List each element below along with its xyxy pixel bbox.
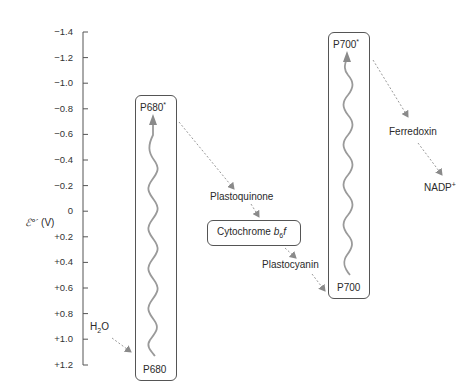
arrow-water-to-p680 — [112, 338, 131, 352]
water-o: O — [101, 321, 109, 332]
p680-excited-label: P680* — [140, 101, 166, 113]
nadp-text: NADP — [424, 182, 452, 193]
cytochrome-text: Cytochrome — [217, 226, 274, 237]
nadp-label: NADP+ — [424, 181, 456, 193]
excited-star: * — [163, 101, 166, 108]
plastoquinone-label: Plastoquinone — [210, 192, 273, 202]
p700-ground-label: P700 — [337, 283, 360, 293]
tick-label: +1.0 — [33, 334, 73, 344]
plastocyanin-label: Plastocyanin — [262, 260, 319, 270]
tick-label: +0.4 — [33, 257, 73, 267]
axis-unit: (V) — [41, 217, 54, 228]
water-label: H2O — [90, 322, 109, 334]
arrow-cytochrome-to-plastocyanin — [285, 248, 296, 258]
tick-label: −1.2 — [33, 53, 73, 63]
axis-title: ℰ°′ (V) — [25, 217, 54, 228]
cytochrome-b6f-label: Cytochrome b6f — [217, 227, 286, 239]
arrow-plastocyanin-to-p700 — [312, 274, 325, 291]
p700-excited-text: P700 — [333, 39, 356, 50]
tick-label: −0.2 — [33, 181, 73, 191]
p680-ground-label: P680 — [143, 365, 166, 375]
tick-label: 0 — [33, 206, 73, 216]
tick-label: +0.2 — [33, 232, 73, 242]
photosystem-ii-box — [135, 95, 177, 381]
arrow-p680-to-plastoquinone — [179, 122, 234, 189]
tick-label: +0.8 — [33, 309, 73, 319]
y-axis — [83, 32, 88, 365]
cytochrome-f: f — [283, 226, 286, 237]
arrow-ferredoxin-to-nadp — [418, 143, 442, 175]
p700-excited-label: P700* — [333, 38, 359, 50]
arrow-p700-to-ferredoxin — [373, 60, 408, 117]
tick-label: −1.4 — [33, 27, 73, 37]
arrow-plastoquinone-to-cytochrome — [251, 204, 259, 217]
photosystem-i-box — [328, 32, 370, 299]
tick-label: +0.6 — [33, 283, 73, 293]
ferredoxin-label: Ferredoxin — [389, 127, 437, 137]
p680-excited-text: P680 — [140, 102, 163, 113]
axis-symbol: ℰ°′ — [25, 217, 38, 228]
tick-label: −0.8 — [33, 104, 73, 114]
excited-star: * — [356, 38, 359, 45]
tick-label: −0.6 — [33, 129, 73, 139]
tick-label: +1.2 — [33, 360, 73, 370]
tick-label: −1.0 — [33, 78, 73, 88]
nadp-plus: + — [452, 181, 456, 188]
tick-label: −0.4 — [33, 155, 73, 165]
